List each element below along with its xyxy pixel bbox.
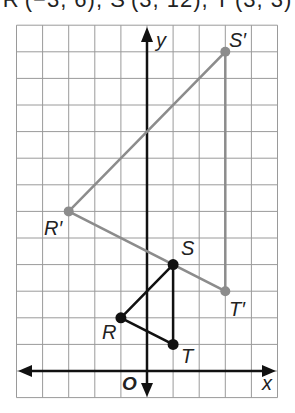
vertex-point-T: [168, 339, 179, 350]
vertex-point-R: [115, 312, 126, 323]
vertex-label-R-prime: R′: [44, 217, 63, 239]
vertex-label-R: R: [102, 321, 116, 343]
coordinate-plane: y x O S′ R′ T′ S R T: [0, 0, 295, 413]
y-axis-label: y: [154, 29, 167, 51]
vertex-point-R′: [64, 206, 74, 216]
y-axis-up-arrow: [141, 27, 153, 42]
vertex-label-T-prime: T′: [229, 298, 246, 320]
vertex-point-T′: [220, 286, 230, 296]
y-axis-down-arrow: [141, 383, 153, 397]
x-axis-left-arrow: [18, 365, 32, 377]
vertex-label-S: S: [181, 237, 195, 259]
x-axis-label: x: [261, 372, 273, 394]
vertex-point-S: [168, 259, 179, 270]
vertex-label-T: T: [181, 345, 195, 367]
origin-label: O: [122, 373, 137, 394]
vertex-label-S-prime: S′: [229, 29, 247, 51]
